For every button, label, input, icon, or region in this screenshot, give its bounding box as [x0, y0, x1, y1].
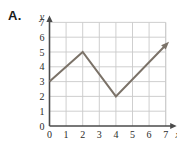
y-axis-arrowhead — [46, 15, 52, 22]
x-tick-label: 3 — [97, 129, 102, 140]
y-tick-label: 5 — [40, 47, 45, 58]
x-tick-label: 4 — [113, 129, 118, 140]
x-tick-label: 1 — [64, 129, 69, 140]
y-tick-label: 0 — [40, 121, 45, 132]
y-tick-label: 1 — [40, 106, 45, 117]
data-polyline — [50, 46, 165, 96]
y-tick-label: 2 — [40, 91, 45, 102]
x-tick-label: 2 — [80, 129, 85, 140]
y-tick-label: 3 — [40, 76, 45, 87]
y-axis-label: y — [39, 11, 45, 22]
y-tick-label: 4 — [40, 61, 45, 72]
graph-figure: A. 01234567 01234567 xy — [0, 0, 177, 147]
coordinate-plane: 01234567 01234567 xy — [0, 0, 177, 147]
y-axis-tick-labels: 01234567 — [40, 17, 45, 132]
x-axis-tick-labels: 01234567 — [47, 129, 168, 140]
x-axis-label: x — [174, 129, 177, 140]
axis-name-labels: xy — [39, 11, 177, 139]
data-series-group — [50, 42, 170, 97]
x-tick-label: 0 — [47, 129, 52, 140]
grid-lines — [50, 22, 166, 126]
x-tick-label: 6 — [147, 129, 152, 140]
x-tick-label: 7 — [163, 129, 168, 140]
y-tick-label: 6 — [40, 32, 45, 43]
x-tick-label: 5 — [130, 129, 135, 140]
